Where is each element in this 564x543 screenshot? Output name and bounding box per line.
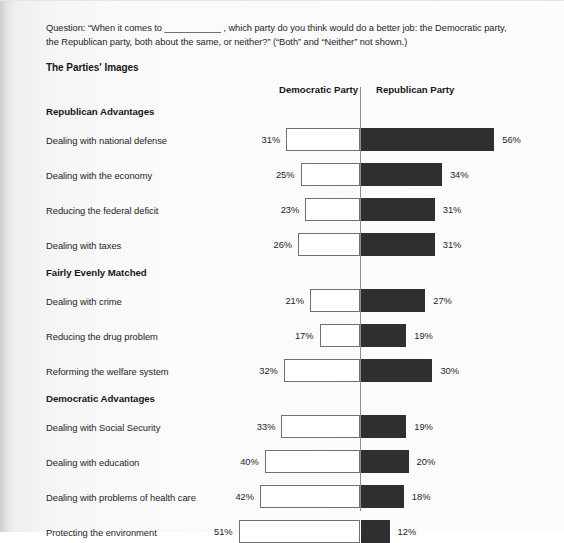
democratic-value-label: 31% [242, 135, 280, 145]
question-text: Question: “When it comes to ___________ … [46, 22, 514, 49]
republican-value-label: 20% [417, 457, 436, 467]
page-title: The Parties' Images [46, 62, 139, 73]
chart-row: Reducing the drug problem17%19% [46, 324, 538, 347]
republican-bar [361, 198, 435, 221]
row-category-label: Protecting the environment [46, 526, 157, 537]
chart-row: Dealing with the economy25%34% [46, 163, 538, 186]
chart-row: Reforming the welfare system32%30% [46, 359, 538, 382]
diverging-bar-chart: Democratic Party Republican Party Republ… [46, 84, 538, 524]
chart-row: Dealing with crime21%27% [46, 289, 538, 312]
group-heading: Republican Advantages [46, 106, 154, 117]
democratic-bar [298, 233, 360, 256]
republican-bar [361, 324, 406, 347]
republican-value-label: 30% [440, 366, 459, 376]
republican-value-label: 19% [414, 331, 433, 341]
republican-bar [361, 163, 442, 186]
chart-row: Dealing with problems of health care42%1… [46, 485, 538, 508]
column-header-republican: Republican Party [376, 84, 454, 95]
row-category-label: Dealing with problems of health care [46, 491, 196, 502]
row-category-label: Dealing with national defense [46, 134, 167, 145]
democratic-bar [286, 128, 360, 151]
chart-row: Dealing with national defense31%56% [46, 128, 538, 151]
chart-row: Dealing with taxes26%31% [46, 233, 538, 256]
democratic-value-label: 51% [195, 527, 233, 537]
row-category-label: Reducing the drug problem [46, 330, 158, 341]
republican-value-label: 34% [450, 170, 469, 180]
group-heading: Democratic Advantages [46, 393, 155, 404]
democratic-value-label: 26% [254, 240, 292, 250]
chart-row: Reducing the federal deficit23%31% [46, 198, 538, 221]
republican-bar [361, 128, 494, 151]
republican-value-label: 27% [433, 296, 452, 306]
republican-value-label: 18% [412, 492, 431, 502]
democratic-value-label: 23% [261, 205, 299, 215]
democratic-value-label: 25% [257, 170, 295, 180]
group-heading: Fairly Evenly Matched [46, 267, 147, 278]
democratic-value-label: 21% [266, 296, 304, 306]
row-category-label: Reforming the welfare system [46, 365, 169, 376]
republican-value-label: 56% [502, 135, 521, 145]
democratic-value-label: 33% [237, 422, 275, 432]
republican-value-label: 31% [443, 240, 462, 250]
democratic-bar [320, 324, 360, 347]
republican-bar [361, 415, 406, 438]
republican-bar [361, 233, 435, 256]
row-category-label: Dealing with taxes [46, 239, 121, 250]
republican-bar [361, 485, 404, 508]
row-category-label: Reducing the federal deficit [46, 204, 158, 215]
democratic-bar [260, 485, 360, 508]
row-category-label: Dealing with the economy [46, 169, 152, 180]
republican-bar [361, 450, 409, 473]
chart-row: Dealing with education40%20% [46, 450, 538, 473]
chart-row: Protecting the environment51%12% [46, 520, 538, 543]
democratic-value-label: 40% [221, 457, 259, 467]
column-header-democratic: Democratic Party [279, 84, 358, 95]
row-category-label: Dealing with crime [46, 295, 122, 306]
democratic-value-label: 32% [240, 366, 278, 376]
republican-bar [361, 289, 425, 312]
republican-bar [361, 359, 432, 382]
republican-value-label: 31% [443, 205, 462, 215]
republican-value-label: 12% [398, 527, 417, 537]
democratic-bar [284, 359, 360, 382]
democratic-bar [239, 520, 360, 543]
row-category-label: Dealing with Social Security [46, 421, 160, 432]
democratic-bar [265, 450, 360, 473]
democratic-value-label: 42% [216, 492, 254, 502]
republican-value-label: 19% [414, 422, 433, 432]
figure-inner: Question: “When it comes to ___________ … [46, 0, 538, 532]
row-category-label: Dealing with education [46, 456, 139, 467]
democratic-bar [301, 163, 361, 186]
chart-row: Dealing with Social Security33%19% [46, 415, 538, 438]
republican-bar [361, 520, 390, 543]
democratic-bar [310, 289, 360, 312]
democratic-bar [281, 415, 360, 438]
democratic-value-label: 17% [276, 331, 314, 341]
democratic-bar [305, 198, 360, 221]
